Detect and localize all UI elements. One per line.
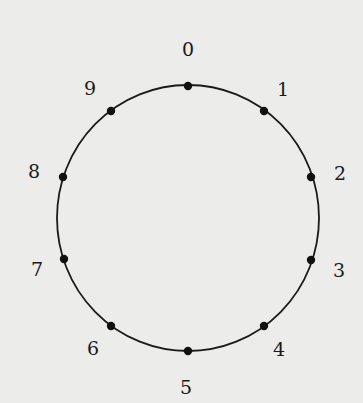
point-dot-1: [260, 107, 268, 115]
point-label-1: 1: [277, 78, 289, 100]
circle-diagram: 0123456789: [0, 0, 363, 403]
point-dot-0: [184, 82, 192, 90]
point-label-8: 8: [28, 160, 40, 182]
point-label-5: 5: [180, 376, 192, 398]
point-label-2: 2: [334, 162, 346, 184]
point-dot-7: [60, 255, 68, 263]
point-label-4: 4: [273, 338, 285, 360]
point-dot-6: [107, 322, 115, 330]
point-dot-5: [184, 347, 192, 355]
point-label-3: 3: [333, 259, 345, 281]
point-dot-4: [260, 322, 268, 330]
point-label-7: 7: [31, 258, 43, 280]
point-dot-9: [107, 107, 115, 115]
point-label-9: 9: [84, 77, 96, 99]
point-dot-2: [307, 173, 315, 181]
point-dot-3: [307, 256, 315, 264]
paper-texture: [0, 0, 363, 403]
point-dot-8: [59, 173, 67, 181]
point-label-0: 0: [182, 38, 194, 60]
point-label-6: 6: [87, 337, 99, 359]
